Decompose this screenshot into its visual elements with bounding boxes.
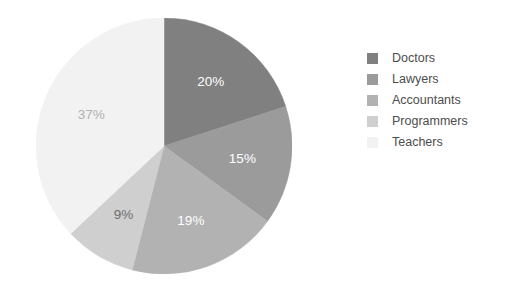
legend-item-accountants: Accountants: [367, 90, 497, 111]
pie-slices: [36, 18, 292, 274]
legend-item-label: Programmers: [392, 115, 468, 128]
legend-item-doctors: Doctors: [367, 48, 497, 69]
legend-swatch-icon: [367, 74, 378, 85]
legend-swatch-icon: [367, 137, 378, 148]
pie-chart-figure: 20%15%19%9%37% DoctorsLawyersAccountants…: [0, 0, 505, 291]
pie-slice-label-lawyers: 15%: [229, 151, 256, 166]
pie-slice-label-doctors: 20%: [197, 74, 224, 89]
legend-item-label: Lawyers: [392, 73, 439, 86]
legend-item-programmers: Programmers: [367, 111, 497, 132]
legend-item-label: Doctors: [392, 52, 435, 65]
legend-swatch-icon: [367, 116, 378, 127]
legend-item-teachers: Teachers: [367, 132, 497, 153]
pie-slice-label-accountants: 19%: [177, 213, 204, 228]
pie-slice-label-programmers: 9%: [114, 207, 134, 222]
legend-item-lawyers: Lawyers: [367, 69, 497, 90]
pie-slice-label-teachers: 37%: [78, 107, 105, 122]
legend-swatch-icon: [367, 95, 378, 106]
legend-item-label: Accountants: [392, 94, 461, 107]
legend-swatch-icon: [367, 53, 378, 64]
legend-item-label: Teachers: [392, 136, 443, 149]
chart-legend: DoctorsLawyersAccountantsProgrammersTeac…: [367, 48, 497, 153]
pie-plot-area: 20%15%19%9%37%: [36, 18, 292, 274]
pie-svg: 20%15%19%9%37%: [36, 18, 292, 274]
